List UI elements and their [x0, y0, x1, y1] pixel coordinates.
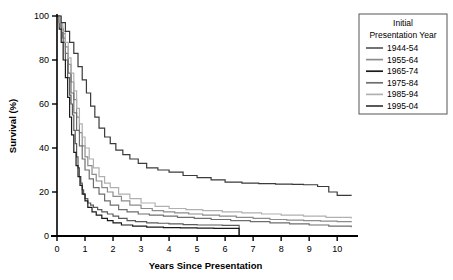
- legend-title-line1: Initial: [393, 18, 413, 28]
- x-tick-label: 8: [279, 244, 284, 254]
- x-tick-label: 1: [83, 244, 88, 254]
- x-tick-label: 10: [332, 244, 342, 254]
- legend-label-1975-84: 1975-84: [387, 78, 418, 88]
- y-tick-label: 20: [39, 187, 49, 197]
- legend-label-1995-04: 1995-04: [387, 101, 418, 111]
- x-tick-label: 0: [54, 244, 59, 254]
- x-tick-label: 9: [307, 244, 312, 254]
- legend-label-1965-74: 1965-74: [387, 66, 418, 76]
- x-tick-label: 6: [223, 244, 228, 254]
- x-tick-label: 5: [195, 244, 200, 254]
- x-tick-label: 4: [167, 244, 172, 254]
- y-tick-label: 0: [44, 231, 49, 241]
- y-tick-label: 60: [39, 99, 49, 109]
- legend-label-1985-94: 1985-94: [387, 89, 418, 99]
- legend-label-1955-64: 1955-64: [387, 55, 418, 65]
- legend-label-1944-54: 1944-54: [387, 43, 418, 53]
- y-axis-title: Survival (%): [7, 99, 18, 153]
- x-tick-label: 7: [251, 244, 256, 254]
- legend: InitialPresentation Year1944-541955-6419…: [359, 14, 447, 114]
- legend-title-line2: Presentation Year: [369, 30, 436, 40]
- x-axis-title: Years Since Presentation: [149, 260, 263, 271]
- x-tick-label: 2: [111, 244, 116, 254]
- survival-curve-chart: 020406080100012345678910Years Since Pres…: [0, 0, 453, 280]
- y-tick-label: 80: [39, 55, 49, 65]
- y-tick-label: 100: [34, 11, 49, 21]
- x-tick-label: 3: [139, 244, 144, 254]
- y-tick-label: 40: [39, 143, 49, 153]
